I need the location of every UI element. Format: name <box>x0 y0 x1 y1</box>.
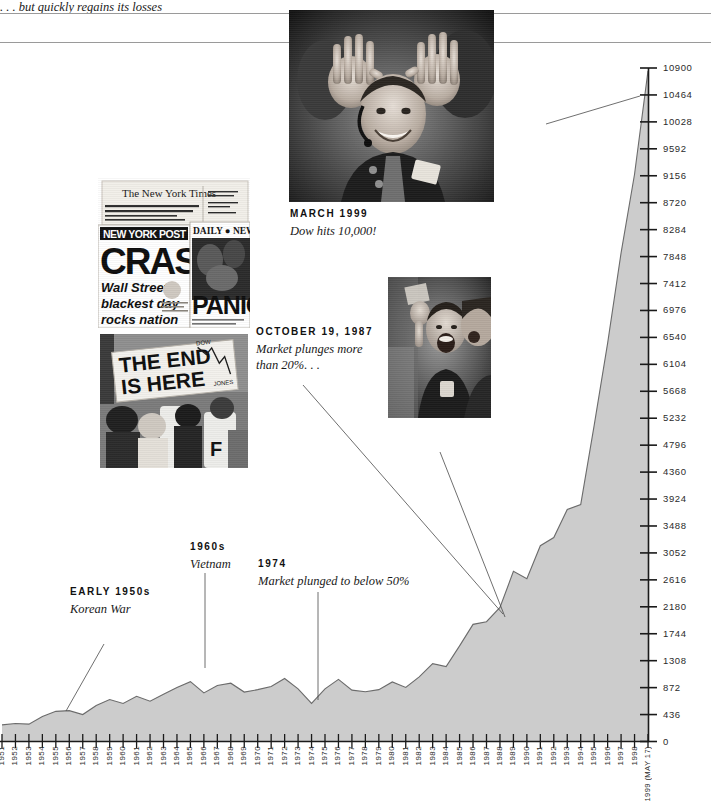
y-axis-tick-label: 8720 <box>663 197 687 208</box>
x-axis-tick-label: 1981 <box>401 746 410 765</box>
annotation-1974-body: Market plunged to below 50% <box>258 573 409 589</box>
x-axis-tick-label: 1959 <box>105 746 114 765</box>
annotation-october-1987-head: OCTOBER 19, 1987 <box>256 326 376 337</box>
x-axis-tick-label: 1962 <box>145 746 154 765</box>
photo-newspaper-crash-headlines: The New York Times NEW YORK POST CRAS Wa… <box>98 178 250 328</box>
x-axis-tick-label: 1966 <box>199 746 208 765</box>
x-axis-tick-label: 1975 <box>320 746 329 765</box>
x-axis-tick-label: 1954 <box>37 746 46 765</box>
photo-grain-overlay <box>100 334 248 468</box>
x-axis-tick-label: 1998 <box>630 746 639 765</box>
leader-line-1950s <box>66 644 104 711</box>
x-axis-tick-label: 1970 <box>253 746 262 765</box>
annotation-early-1950s: EARLY 1950s Korean War <box>70 586 151 617</box>
y-axis-labels: 0436872130817442180261630523488392443604… <box>663 0 711 760</box>
x-axis-tick-label: 1968 <box>226 746 235 765</box>
y-axis-tick-label: 6976 <box>663 304 687 315</box>
y-axis-tick-label: 6104 <box>663 358 687 369</box>
y-axis-tick-label: 10464 <box>663 89 692 100</box>
y-axis-tick-label: 3488 <box>663 520 687 531</box>
x-axis-tick-label: 1965 <box>185 746 194 765</box>
x-axis-tick-label: 1974 <box>307 746 316 765</box>
photo-grain-overlay <box>388 277 491 418</box>
x-axis-tick-label: 1996 <box>603 746 612 765</box>
y-axis-tick-label: 3924 <box>663 493 687 504</box>
x-axis-labels: 1951195219531954195519561957195819591960… <box>0 746 660 795</box>
y-axis-tick-label: 2180 <box>663 601 687 612</box>
x-axis-tick-label: 1997 <box>616 746 625 765</box>
x-axis-tick-label: 1976 <box>333 746 342 765</box>
y-axis-tick-label: 7412 <box>663 278 687 289</box>
y-axis-tick-label: 5668 <box>663 385 687 396</box>
y-axis-tick-label: 10028 <box>663 116 692 127</box>
annotation-early-1950s-body: Korean War <box>70 601 151 617</box>
x-axis-tick-label: 1957 <box>78 746 87 765</box>
x-axis-tick-label: 1982 <box>414 746 423 765</box>
x-axis-tick-label: 1988 <box>495 746 504 765</box>
y-axis-tick-label: 436 <box>663 709 681 720</box>
y-axis-tick-label: 1744 <box>663 628 687 639</box>
leader-line-1999 <box>546 96 640 124</box>
photo-traders-cheering <box>388 277 491 418</box>
photo-trader-celebrating-dow-10000 <box>289 10 494 202</box>
x-axis-tick-label: 1991 <box>535 746 544 765</box>
y-axis-tick-label: 4360 <box>663 466 687 477</box>
annotation-early-1950s-head: EARLY 1950s <box>70 586 151 597</box>
annotation-march-1999-body: Dow hits 10,000! <box>290 223 376 239</box>
y-axis-tick-label: 5232 <box>663 412 687 423</box>
y-axis-tick-label: 4796 <box>663 439 687 450</box>
leader-line-regains <box>440 452 505 617</box>
x-axis-tick-label: 1972 <box>280 746 289 765</box>
x-axis-tick-label: 1987 <box>482 746 491 765</box>
annotation-1974: 1974 Market plunged to below 50% <box>258 558 409 589</box>
x-axis-tick-label: 1992 <box>549 746 558 765</box>
x-axis-tick-label: 1958 <box>91 746 100 765</box>
y-axis-tick-label: 8284 <box>663 224 687 235</box>
y-axis-tick-label: 2616 <box>663 574 687 585</box>
x-axis-tick-label: 1960 <box>118 746 127 765</box>
annotation-march-1999-head: MARCH 1999 <box>290 208 376 219</box>
x-axis-tick-label: 1990 <box>522 746 531 765</box>
x-axis-tick-label: 1986 <box>468 746 477 765</box>
y-axis-tick-label: 10900 <box>663 62 692 73</box>
y-axis-tick-label: 0 <box>663 736 669 747</box>
x-axis-tick-label: 1983 <box>428 746 437 765</box>
x-axis-tick-label: 1963 <box>159 746 168 765</box>
photo-the-end-is-here-protest: THE END IS HERE DOW JONES F <box>100 334 248 468</box>
annotation-1960s-body: Vietnam <box>190 556 231 572</box>
x-axis-tick-label: 1955 <box>51 746 60 765</box>
annotation-1960s-head: 1960s <box>190 541 231 552</box>
x-axis-tick-label: 1985 <box>455 746 464 765</box>
x-axis-tick-label: 1999 (MAY 17) <box>643 746 652 802</box>
x-axis-tick-label: 1995 <box>589 746 598 765</box>
y-axis-tick-label: 9592 <box>663 143 687 154</box>
x-axis-tick-label: 1971 <box>266 746 275 765</box>
annotation-october-1987-body: Market plunges more than 20%. . . <box>256 341 376 373</box>
x-axis-tick-label: 1979 <box>374 746 383 765</box>
x-axis-tick-label: 1956 <box>64 746 73 765</box>
x-axis-tick-label: 1978 <box>360 746 369 765</box>
annotation-1960s: 1960s Vietnam <box>190 541 231 572</box>
y-axis-tick-label: 872 <box>663 682 681 693</box>
annotation-1974-head: 1974 <box>258 558 409 569</box>
x-axis-tick-label: 1973 <box>293 746 302 765</box>
y-axis-tick-label: 1308 <box>663 655 687 666</box>
annotation-march-1999: MARCH 1999 Dow hits 10,000! <box>290 208 376 239</box>
x-axis-tick-label: 1977 <box>347 746 356 765</box>
x-axis-tick-label: 1984 <box>441 746 450 765</box>
x-axis-tick-label: 1980 <box>387 746 396 765</box>
x-axis-tick-label: 1964 <box>172 746 181 765</box>
x-axis-tick-label: 1989 <box>508 746 517 765</box>
y-axis-tick-label: 9156 <box>663 170 687 181</box>
x-axis-tick-label: 1994 <box>576 746 585 765</box>
photo-grain-overlay <box>98 178 250 328</box>
x-axis-tick-label: 1951 <box>0 746 6 765</box>
annotation-october-1987: OCTOBER 19, 1987 Market plunges more tha… <box>256 326 376 373</box>
y-axis-tick-label: 3052 <box>663 547 687 558</box>
x-axis-tick-label: 1969 <box>239 746 248 765</box>
x-axis-tick-label: 1967 <box>212 746 221 765</box>
x-axis-tick-label: 1952 <box>10 746 19 765</box>
photo-grain-overlay <box>289 10 494 202</box>
y-axis-tick-label: 7848 <box>663 251 687 262</box>
y-axis-tick-label: 6540 <box>663 331 687 342</box>
